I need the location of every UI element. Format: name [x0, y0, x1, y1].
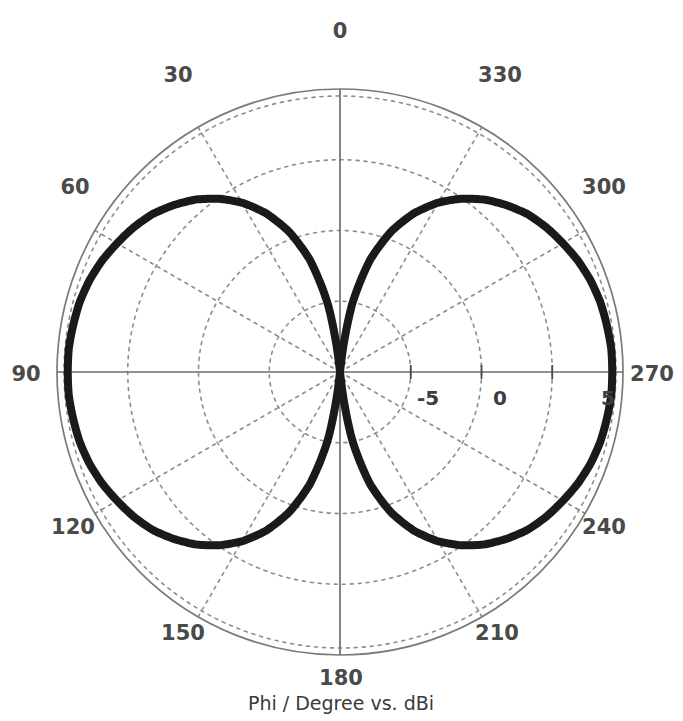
radial-label-minus5: -5: [417, 386, 439, 410]
angle-label-30: 30: [163, 63, 192, 87]
angle-label-300: 300: [582, 175, 626, 199]
angle-label-180: 180: [319, 666, 363, 690]
polar-radiation-pattern-chart: 0 30 60 90 120 150 180 210 240 270 300 3…: [0, 0, 683, 721]
angle-label-330: 330: [478, 63, 522, 87]
angle-label-0: 0: [333, 19, 348, 43]
radial-label-0: 0: [493, 386, 507, 410]
angle-label-90: 90: [11, 362, 40, 386]
chart-caption: Phi / Degree vs. dBi: [248, 692, 434, 714]
angle-label-120: 120: [51, 515, 95, 539]
radial-label-5: 5: [601, 386, 615, 410]
angle-label-270: 270: [630, 362, 674, 386]
angle-label-150: 150: [161, 621, 205, 645]
angle-label-240: 240: [582, 515, 626, 539]
angle-label-210: 210: [475, 621, 519, 645]
angle-label-60: 60: [60, 175, 89, 199]
polar-plot-container: 0 30 60 90 120 150 180 210 240 270 300 3…: [0, 0, 683, 721]
